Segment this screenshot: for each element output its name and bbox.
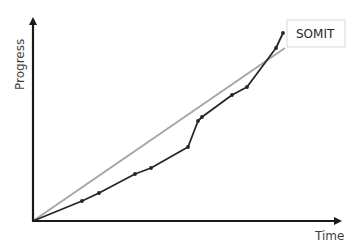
y-axis-label: Progress xyxy=(13,39,27,90)
progress-point-marker xyxy=(149,166,153,170)
ideal-progress-line xyxy=(33,48,285,221)
somit-callout-label: SOMIT xyxy=(296,27,335,41)
progress-point-marker xyxy=(245,85,249,89)
progress-point-marker xyxy=(186,145,190,149)
x-axis-label: Time xyxy=(314,229,344,243)
progress-point-marker xyxy=(133,172,137,176)
actual-progress-markers xyxy=(80,31,285,203)
progress-point-marker xyxy=(200,115,204,119)
progress-diagram: Progress Time SOMIT xyxy=(0,0,362,250)
progress-point-marker xyxy=(281,31,285,35)
progress-point-marker xyxy=(196,119,200,123)
progress-point-marker xyxy=(80,199,84,203)
progress-point-marker xyxy=(97,191,101,195)
actual-progress-line xyxy=(33,33,283,221)
progress-point-marker xyxy=(230,93,234,97)
progress-point-marker xyxy=(274,46,278,50)
